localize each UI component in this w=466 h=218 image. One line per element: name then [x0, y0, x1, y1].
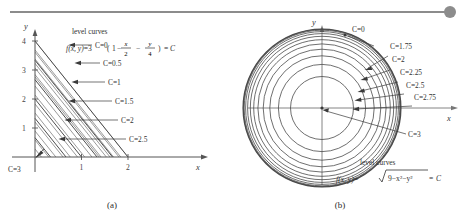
formula-a-minus2: − [136, 44, 140, 53]
formula-b-args: (x, y) [338, 175, 354, 184]
level-label-b-1: C=1.75 [390, 42, 412, 51]
y-tick-2: 2 [22, 95, 26, 104]
formula-a-minus1: − [117, 44, 121, 53]
formula-a-coef: 3 [88, 44, 92, 53]
x-axis-label-a: x [195, 163, 200, 172]
level-label-b-4: C=2.5 [406, 81, 425, 90]
level-label-b-5: C=2.75 [414, 93, 436, 102]
figure-canvas: y x 4 3 2 1 1 2 [0, 0, 466, 218]
level-label-a-4: C=2 [121, 116, 134, 125]
rule-endpoint-dot-icon [444, 6, 456, 18]
panel-caption-b: (b) [335, 200, 346, 210]
y-axis-label-a: y [23, 22, 28, 31]
center-label-b: C=3 [408, 130, 421, 139]
y-axis-label-b: y [311, 18, 316, 27]
figure-level-curves: y x 4 3 2 1 1 2 [0, 0, 466, 218]
level-label-b-3: C=2.25 [400, 68, 422, 77]
y-axis-arrow-a [33, 29, 38, 36]
formula-a-one: 1 [112, 44, 116, 53]
panel-a: y x 4 3 2 1 1 2 [8, 22, 208, 218]
formula-b-eq: = [354, 175, 358, 184]
formula-a-close-paren: ) [158, 44, 161, 53]
formula-b-eq2: = [429, 174, 433, 183]
x-axis-arrow-b [451, 106, 458, 110]
legend-title-a: level curves [72, 27, 108, 36]
formula-b: f(x, y)= 9−x²−y² = C [336, 170, 442, 184]
axes-a [12, 29, 208, 172]
level-label-a-3: C=1.5 [115, 97, 134, 106]
formula-a-C: C [170, 44, 176, 53]
top-rule-decoration [10, 6, 456, 18]
formula-a-open-paren: ( [107, 44, 110, 53]
formula-a: f(x, y)=3 ( 1 − x 2 − y 4 ) = C [66, 40, 176, 57]
y-tick-1: 1 [22, 124, 26, 133]
level-label-b-0: C=0 [352, 25, 365, 34]
level-label-b-2: C=2 [392, 55, 405, 64]
formula-a-num-y: y [148, 40, 152, 47]
y-tick-4: 4 [22, 37, 26, 46]
formula-a-den-x: 2 [124, 50, 127, 57]
x-axis-label-b: x [446, 114, 451, 123]
level-point-c3 [320, 106, 323, 109]
y-tick-3: 3 [22, 66, 26, 75]
panel-b: y x [243, 18, 458, 210]
level-label-a-2: C=1 [108, 78, 121, 87]
formula-a-den-y: 4 [148, 50, 152, 57]
x-tick-1: 1 [80, 163, 84, 172]
x-axis-arrow-a [201, 155, 208, 160]
panel-caption-a: (a) [107, 200, 117, 210]
formula-b-C: C [436, 174, 442, 183]
formula-a-args: (x, y) [68, 44, 84, 53]
legend-title-b: level curves [360, 158, 396, 167]
x-tick-2: 2 [126, 163, 130, 172]
svg-text:f(x, y)=: f(x, y)= [336, 175, 358, 184]
formula-a-num-x: x [124, 40, 128, 47]
svg-text:f(x, y)=3: f(x, y)=3 [66, 44, 92, 53]
level-label-a-1: C=0.5 [103, 59, 122, 68]
level-label-a-5: C=2.5 [129, 135, 148, 144]
formula-b-radicand: 9−x²−y² [388, 174, 413, 183]
level-line-c2 [35, 118, 66, 157]
formula-a-eq2: = [164, 44, 168, 53]
level-line-c0-5 [35, 60, 113, 157]
origin-label-a: C=3 [8, 165, 21, 174]
